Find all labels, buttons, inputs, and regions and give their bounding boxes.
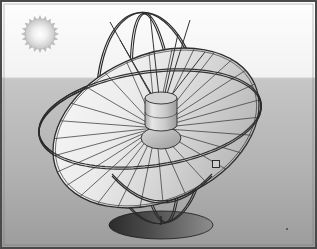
receiver-top-cap [145, 92, 177, 104]
illustration-frame: Illustration of a gimbal-mounted parabol… [0, 0, 317, 249]
gimbal-pivot-joint [213, 161, 220, 168]
receiver-cylinder [145, 92, 177, 131]
solar-dish-illustration [0, 0, 317, 249]
image-artifact-speck [286, 228, 288, 230]
sun-disc-icon [25, 19, 55, 49]
scene-root [2, 2, 315, 247]
